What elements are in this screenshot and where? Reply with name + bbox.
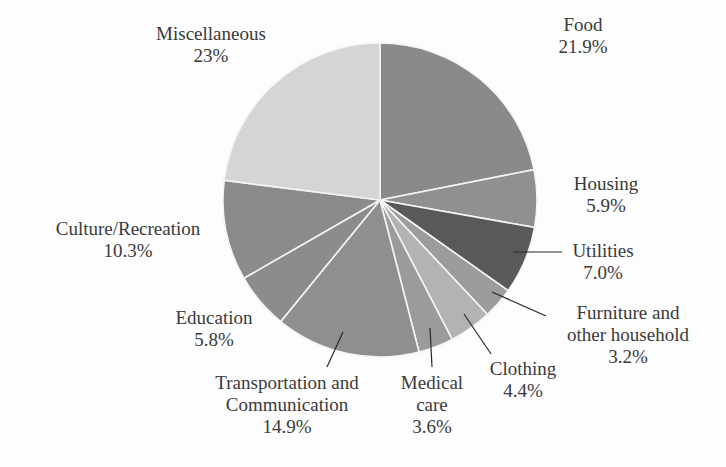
slice-label-clothing: Clothing4.4% bbox=[490, 358, 557, 402]
slice-label-name: Clothing bbox=[490, 358, 557, 380]
slice-label-name: Culture/Recreation bbox=[56, 218, 201, 240]
slice-label-name: care bbox=[401, 394, 463, 416]
slice-label-value: 5.9% bbox=[574, 195, 638, 217]
slice-label-value: 7.0% bbox=[572, 262, 633, 284]
slice-label-food: Food21.9% bbox=[558, 14, 607, 58]
pie-slices bbox=[223, 43, 537, 357]
slice-label-miscellaneous: Miscellaneous23% bbox=[156, 23, 266, 67]
slice-label-value: 23% bbox=[156, 45, 266, 67]
slice-label-value: 14.9% bbox=[215, 416, 358, 438]
slice-label-value: 3.6% bbox=[401, 416, 463, 438]
slice-label-name: Housing bbox=[574, 173, 638, 195]
slice-label-name: Miscellaneous bbox=[156, 23, 266, 45]
slice-label-name: Food bbox=[558, 14, 607, 36]
slice-label-housing: Housing5.9% bbox=[574, 173, 638, 217]
slice-label-medical-care: Medicalcare3.6% bbox=[401, 372, 463, 438]
slice-label-value: 4.4% bbox=[490, 380, 557, 402]
slice-label-culture-recreation: Culture/Recreation10.3% bbox=[56, 218, 201, 262]
slice-label-utilities: Utilities7.0% bbox=[572, 240, 633, 284]
slice-label-value: 3.2% bbox=[567, 346, 689, 368]
slice-label-transportation-and-communication: Transportation andCommunication14.9% bbox=[215, 372, 358, 438]
slice-label-name: Communication bbox=[215, 394, 358, 416]
slice-label-name: Education bbox=[175, 307, 252, 329]
slice-label-name: Transportation and bbox=[215, 372, 358, 394]
slice-label-value: 5.8% bbox=[175, 329, 252, 351]
slice-label-furniture-and-other-household: Furniture andother household3.2% bbox=[567, 302, 689, 368]
slice-label-name: Furniture and bbox=[567, 302, 689, 324]
slice-label-education: Education5.8% bbox=[175, 307, 252, 351]
slice-label-name: other household bbox=[567, 324, 689, 346]
slice-label-name: Medical bbox=[401, 372, 463, 394]
leader-line-furniture-and-other-household bbox=[492, 292, 546, 316]
slice-label-value: 21.9% bbox=[558, 36, 607, 58]
slice-label-value: 10.3% bbox=[56, 240, 201, 262]
slice-label-name: Utilities bbox=[572, 240, 633, 262]
